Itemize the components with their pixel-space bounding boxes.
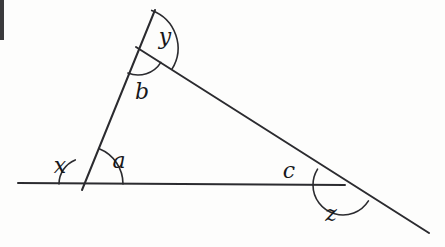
angle-label-y: y bbox=[158, 24, 172, 49]
angle-label-b: b bbox=[135, 79, 149, 104]
angle-label-c: c bbox=[283, 158, 295, 183]
descending-diagonal-line bbox=[136, 47, 429, 233]
diagram-canvas: x a b y c z bbox=[0, 0, 445, 247]
angle-label-x: x bbox=[54, 153, 67, 178]
diagram-angle-labels: x a b y c z bbox=[54, 24, 337, 226]
angle-arc-c bbox=[313, 169, 318, 185]
diagram-lines bbox=[18, 10, 429, 233]
angle-label-z: z bbox=[324, 201, 337, 226]
geometry-figure: x a b y c z bbox=[0, 0, 445, 247]
angle-label-a: a bbox=[112, 148, 125, 173]
horizontal-base-line bbox=[18, 183, 345, 185]
